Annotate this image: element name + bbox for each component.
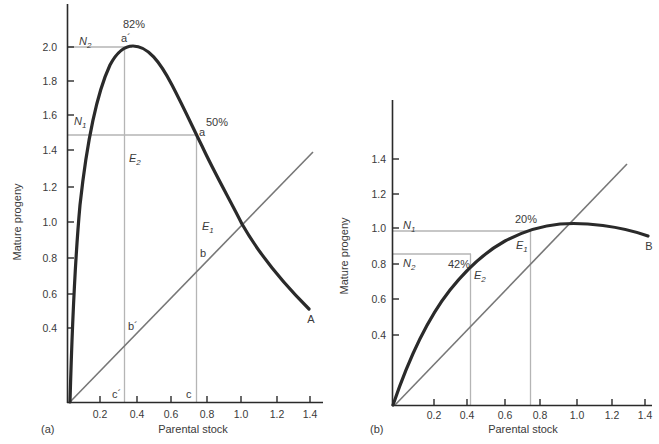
y-tick-label: 1.6	[42, 109, 57, 121]
annotation-e2: E2	[474, 269, 486, 284]
panel-a-x-tick-labels: 0.2 0.4 0.6 0.8 1.0 1.2 1.4	[93, 408, 318, 420]
x-tick-label: 0.2	[427, 409, 442, 421]
y-tick-label: 0.4	[371, 329, 386, 341]
panel-a-y-axis-title: Mature progeny	[11, 183, 23, 261]
x-tick-label: 1.2	[605, 409, 620, 421]
y-tick-label: 0.6	[371, 293, 386, 305]
annotation-b-prime: b´	[128, 320, 138, 332]
annotation-82-percent: 82%	[123, 18, 145, 30]
y-tick-label: 1.4	[42, 144, 57, 156]
annotation-n2: N2	[79, 35, 92, 50]
annotation-a: a	[199, 126, 206, 138]
panel-b-x-axis-title: Parental stock	[488, 423, 558, 435]
x-tick-label: 0.8	[200, 408, 215, 420]
x-tick-label: 0.6	[498, 409, 513, 421]
annotation-n2: N2	[403, 257, 416, 272]
panel-a-y-tick-labels: 0.4 0.6 0.8 1.0 1.2 1.4 1.6 1.8 2.0	[42, 41, 57, 334]
annotation-e1: E1	[202, 220, 214, 235]
y-tick-label: 0.8	[371, 258, 386, 270]
panel-a-x-axis-title: Parental stock	[158, 423, 228, 435]
x-tick-label: 0.4	[130, 408, 145, 420]
panel-b-y-axis-title: Mature progeny	[338, 217, 350, 295]
panel-b-x-ticks	[434, 399, 645, 405]
x-tick-label: 1.0	[570, 409, 585, 421]
annotation-b: b	[200, 247, 206, 259]
x-tick-label: 1.0	[234, 408, 249, 420]
annotation-c-prime: c´	[112, 388, 121, 400]
annotation-c: c	[186, 388, 192, 400]
x-tick-label: 1.4	[303, 408, 318, 420]
panel-a-x-ticks	[100, 396, 310, 402]
annotation-42-percent: 42%	[448, 258, 470, 270]
annotation-curve-b: B	[645, 240, 652, 252]
y-tick-label: 1.0	[371, 222, 386, 234]
panel-a: 0.4 0.6 0.8 1.0 1.2 1.4 1.6 1.8 2.0 0.2 …	[11, 4, 323, 435]
panel-b-x-tick-labels: 0.2 0.4 0.6 0.8 1.0 1.2 1.4	[427, 409, 653, 421]
panel-b-y-tick-labels: 0.4 0.6 0.8 1.0 1.2 1.4	[371, 153, 386, 341]
annotation-n1: N1	[74, 115, 86, 130]
panel-a-guides	[68, 47, 197, 402]
annotation-n1: N1	[403, 219, 415, 234]
annotation-50-percent: 50%	[206, 116, 228, 128]
x-tick-label: 1.2	[270, 408, 285, 420]
y-tick-label: 1.2	[42, 181, 57, 193]
x-tick-label: 0.4	[460, 409, 475, 421]
y-tick-label: 0.4	[42, 322, 57, 334]
figure-canvas: 0.4 0.6 0.8 1.0 1.2 1.4 1.6 1.8 2.0 0.2 …	[0, 0, 659, 444]
panel-a-curve	[70, 46, 309, 402]
y-tick-label: 0.8	[42, 252, 57, 264]
panel-a-label: (a)	[41, 423, 54, 435]
panel-b-label: (b)	[370, 423, 383, 435]
annotation-curve-a: A	[307, 313, 315, 325]
y-tick-label: 1.4	[371, 153, 386, 165]
y-tick-label: 1.8	[42, 75, 57, 87]
annotation-e1: E1	[516, 239, 528, 254]
annotation-e2: E2	[129, 152, 141, 167]
x-tick-label: 1.4	[638, 409, 653, 421]
panel-b: 0.4 0.6 0.8 1.0 1.2 1.4 0.2 0.4 0.6 0.8 …	[338, 100, 653, 435]
annotation-a-prime: a´	[121, 32, 131, 44]
panel-a-replacement-line	[70, 152, 313, 402]
y-tick-label: 1.2	[371, 188, 386, 200]
x-tick-label: 0.6	[164, 408, 179, 420]
x-tick-label: 0.2	[93, 408, 108, 420]
y-tick-label: 0.6	[42, 288, 57, 300]
panel-b-replacement-line	[395, 164, 627, 405]
x-tick-label: 0.8	[533, 409, 548, 421]
y-tick-label: 2.0	[42, 41, 57, 53]
y-tick-label: 1.0	[42, 216, 57, 228]
annotation-20-percent: 20%	[515, 213, 537, 225]
